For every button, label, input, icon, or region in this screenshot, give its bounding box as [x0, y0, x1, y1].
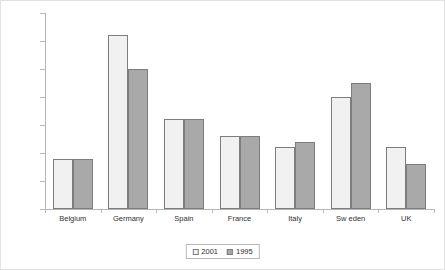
y-axis-tick: 3,5 [1, 13, 45, 14]
legend-swatch-icon [192, 249, 198, 255]
bar-italy-1995 [295, 142, 315, 209]
legend-label: 2001 [201, 247, 218, 256]
x-axis-tick-mark [212, 209, 213, 213]
bar-germany-1995 [128, 69, 148, 209]
bar-group [53, 13, 93, 209]
bar-belgium-1995 [73, 159, 93, 209]
x-axis-tick-mark [45, 209, 46, 213]
bar-spain-2001 [164, 119, 184, 209]
bar-group [108, 13, 148, 209]
y-axis-tick: 0 [1, 209, 45, 210]
bar-germany-2001 [108, 35, 128, 209]
legend-swatch-icon [227, 249, 233, 255]
x-axis-tick-mark [267, 209, 268, 213]
legend-label: 1995 [236, 247, 253, 256]
x-axis-label-spain: Spain [156, 214, 212, 224]
chart-legend: 20011995 [185, 244, 259, 259]
bar-france-1995 [240, 136, 260, 209]
bar-group [331, 13, 371, 209]
y-axis-tick: 0,5 [1, 181, 45, 182]
x-axis-tick-mark [156, 209, 157, 213]
y-axis-tick: 1,5 [1, 125, 45, 126]
bar-group [164, 13, 204, 209]
y-axis-tick: 2 [1, 97, 45, 98]
y-axis-tick: 1 [1, 153, 45, 154]
x-axis-label-sweden: Sw eden [323, 214, 379, 224]
x-axis-tick-mark [323, 209, 324, 213]
y-axis-tick: 2,5 [1, 69, 45, 70]
legend-item-2001[interactable]: 2001 [192, 247, 218, 256]
bar-spain-1995 [184, 119, 204, 209]
bar-uk-2001 [386, 147, 406, 209]
y-axis-tick: 3 [1, 41, 45, 42]
bar-italy-2001 [275, 147, 295, 209]
legend-item-1995[interactable]: 1995 [227, 247, 253, 256]
bar-group [386, 13, 426, 209]
bar-uk-1995 [406, 164, 426, 209]
plot-area [45, 13, 434, 209]
bar-belgium-2001 [53, 159, 73, 209]
x-axis-label-france: France [212, 214, 268, 224]
bar-france-2001 [220, 136, 240, 209]
bar-sweden-1995 [351, 83, 371, 209]
x-axis-label-germany: Germany [101, 214, 157, 224]
bar-chart: 00,511,522,533,5 BelgiumGermanySpainFran… [0, 0, 445, 270]
x-axis-label-italy: Italy [267, 214, 323, 224]
bar-group [220, 13, 260, 209]
x-axis-label-uk: UK [378, 214, 434, 224]
x-axis-label-belgium: Belgium [45, 214, 101, 224]
bar-group [275, 13, 315, 209]
bar-sweden-2001 [331, 97, 351, 209]
x-axis-tick-mark [434, 209, 435, 213]
x-axis-line [45, 209, 434, 210]
x-axis-tick-mark [378, 209, 379, 213]
x-axis-tick-mark [101, 209, 102, 213]
